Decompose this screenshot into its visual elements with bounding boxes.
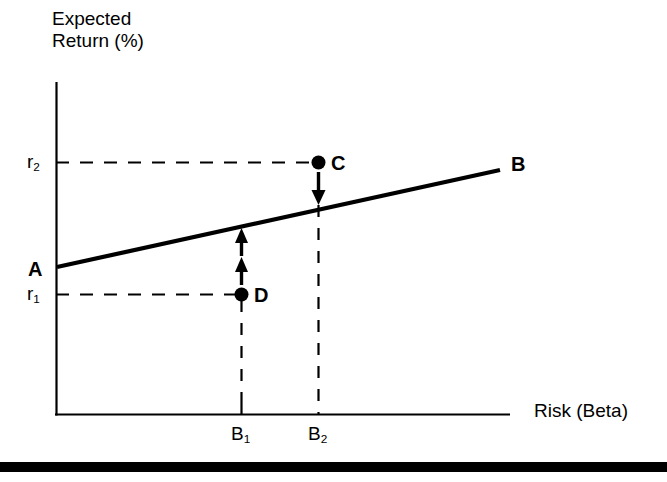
x-tick-label-b1-sub: 1 (244, 432, 251, 445)
x-tick-label-b2: B2 (308, 423, 327, 446)
data-point-label-c: C (331, 152, 345, 176)
y-axis-title: Expected Return (%) (52, 8, 144, 53)
arrow-down-c-to-sml (312, 172, 326, 205)
y-tick-label-r1-sub: 1 (33, 292, 40, 305)
y-axis-title-line-2: Return (%) (52, 30, 144, 52)
x-tick-label-b1: B1 (231, 423, 250, 446)
arrow-up-d-to-sml-upper (235, 228, 248, 256)
data-point-d (235, 288, 249, 302)
data-point-c (312, 156, 326, 170)
security-market-line-figure: Expected Return (%) Risk (Beta) r2 r1 B1… (0, 0, 667, 482)
y-tick-label-r1: r1 (27, 283, 40, 306)
y-tick-label-r2: r2 (27, 151, 40, 174)
x-tick-label-b1-base: B (231, 423, 244, 444)
x-tick-label-b2-base: B (308, 423, 321, 444)
data-point-label-d: D (254, 284, 268, 308)
line-end-label-b: B (511, 153, 525, 177)
x-axis-title: Risk (Beta) (534, 400, 628, 422)
security-market-line (57, 170, 500, 267)
y-axis-title-line-1: Expected (52, 8, 144, 30)
x-tick-label-b2-sub: 2 (321, 432, 328, 445)
bottom-rule (0, 462, 667, 472)
arrow-up-d-to-sml-lower (235, 257, 248, 285)
y-tick-label-r2-sub: 2 (33, 160, 40, 173)
line-start-label-a: A (28, 258, 42, 282)
